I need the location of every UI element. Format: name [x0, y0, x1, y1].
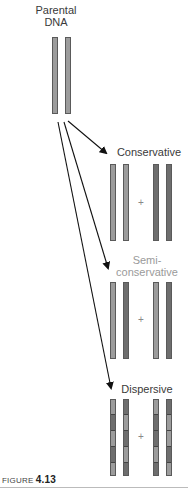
- semiconservative-strand-4: [166, 282, 172, 359]
- plus-sign: +: [138, 315, 144, 325]
- caption-number: 4.13: [36, 474, 56, 485]
- arrow-to-dispersive: [58, 122, 111, 388]
- arrows: [0, 0, 188, 491]
- semiconservative-label-line2: conservative: [106, 266, 188, 278]
- arrow-to-conservative: [68, 121, 106, 153]
- semiconservative-label: Semi- conservative: [106, 254, 188, 278]
- plus-sign: +: [138, 432, 144, 442]
- arrow-to-semiconservative: [64, 122, 108, 268]
- figure-caption: FIGURE 4.13: [2, 474, 56, 485]
- dispersive-strand-3: [153, 399, 159, 476]
- dispersive-strand-2: [123, 399, 129, 476]
- conservative-strand-3: [153, 164, 159, 241]
- conservative-strand-1: [110, 164, 116, 241]
- dispersive-strand-1: [110, 399, 116, 476]
- semiconservative-strand-3: [153, 282, 159, 359]
- dispersive-label: Dispersive: [114, 383, 180, 395]
- semiconservative-strand-2: [123, 282, 129, 359]
- conservative-label: Conservative: [110, 146, 188, 158]
- conservative-strand-2: [123, 164, 129, 241]
- plus-sign: +: [138, 198, 144, 208]
- caption-rule: [0, 487, 188, 488]
- dispersive-strand-4: [166, 399, 172, 476]
- caption-prefix: FIGURE: [2, 476, 36, 485]
- semiconservative-strand-1: [110, 282, 116, 359]
- conservative-strand-4: [166, 164, 172, 241]
- semiconservative-label-line1: Semi-: [106, 254, 188, 266]
